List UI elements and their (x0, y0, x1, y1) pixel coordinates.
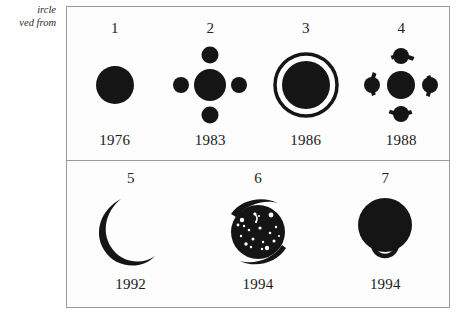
item-index-label: 3 (302, 21, 310, 36)
bottom-panel: 5 1992 6 (67, 161, 449, 306)
margin-caption: ircle ved from (0, 3, 58, 29)
disk-in-ring-icon (258, 36, 354, 133)
item-index-label: 7 (382, 171, 390, 186)
figure-item-7: 7 1994 (322, 161, 449, 306)
item-index-label: 2 (207, 21, 215, 36)
figure-frame: 1 1976 2 (66, 6, 450, 308)
item-year-label: 1986 (290, 133, 321, 148)
figure-item-6: 6 (194, 161, 321, 306)
item-year-label: 1994 (370, 277, 401, 292)
solid-disk-icon (67, 36, 163, 133)
figure-item-3: 3 1986 (258, 7, 354, 160)
item-index-label: 5 (127, 171, 135, 186)
speckled-disk-with-swoosh-icon (194, 186, 321, 277)
margin-caption-line-1: ircle (0, 3, 56, 16)
item-year-label: 1988 (386, 133, 417, 148)
item-index-label: 1 (111, 21, 119, 36)
figure-item-5: 5 1992 (67, 161, 194, 306)
bottom-panel-icon-row: 5 1992 6 (67, 161, 449, 306)
margin-caption-line-2: ved from (0, 16, 56, 29)
figure-item-4: 4 1988 (354, 7, 450, 160)
item-index-label: 4 (398, 21, 406, 36)
figure-item-2: 2 1983 (163, 7, 259, 160)
disk-with-satellites-on-dashed-orbit-icon (354, 36, 450, 133)
item-index-label: 6 (254, 171, 262, 186)
figure-item-1: 1 1976 (67, 7, 163, 160)
disk-with-loop-icon (322, 186, 449, 277)
disk-with-four-satellites-icon (163, 36, 259, 133)
top-panel-icon-row: 1 1976 2 (67, 7, 449, 160)
item-year-label: 1992 (115, 277, 146, 292)
crescent-icon (67, 186, 194, 277)
item-year-label: 1994 (243, 277, 274, 292)
top-panel: 1 1976 2 (67, 7, 449, 161)
item-year-label: 1983 (195, 133, 226, 148)
item-year-label: 1976 (99, 133, 130, 148)
